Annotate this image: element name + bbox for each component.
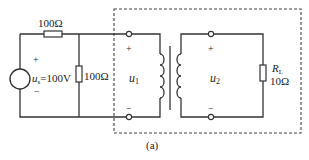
- source-minus: −: [34, 86, 40, 97]
- load-value-label: 10Ω: [270, 75, 289, 87]
- wire-primary: [132, 34, 160, 117]
- shunt-resistor-label: 100Ω: [84, 70, 109, 82]
- load-name-label: RL: [271, 62, 283, 76]
- secondary-plus: +: [208, 43, 214, 54]
- series-resistor-label: 100Ω: [38, 17, 63, 29]
- wire-secondary: [181, 34, 263, 117]
- primary-coil-icon: [160, 54, 164, 98]
- shunt-resistor-icon: [76, 66, 82, 82]
- terminal-primary-top: [126, 31, 131, 36]
- figure-caption: (a): [146, 139, 159, 152]
- terminal-secondary-bottom: [208, 114, 213, 119]
- secondary-voltage-label: u2: [210, 71, 220, 86]
- source-label: us=100V: [32, 72, 71, 86]
- circuit-diagram: 100Ω + − us=100V 100Ω + − u1 + − u2 RL 1…: [0, 0, 309, 160]
- series-resistor-icon: [44, 31, 62, 37]
- primary-voltage-label: u1: [129, 71, 139, 86]
- primary-plus: +: [126, 43, 132, 54]
- primary-minus: −: [126, 103, 132, 114]
- secondary-coil-icon: [177, 54, 181, 98]
- terminal-secondary-top: [208, 31, 213, 36]
- voltage-source-icon: [10, 69, 30, 89]
- load-resistor-icon: [260, 65, 266, 81]
- terminal-primary-bottom: [126, 114, 131, 119]
- source-plus: +: [33, 54, 39, 65]
- secondary-minus: −: [208, 103, 214, 114]
